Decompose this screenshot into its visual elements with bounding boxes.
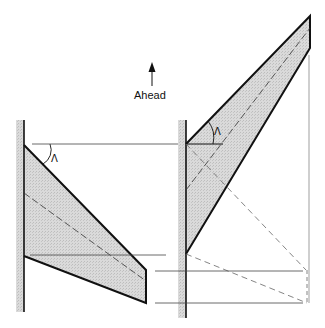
ahead-arrow-icon (149, 62, 156, 86)
left-sweep-angle-arc (43, 144, 51, 164)
right-quarter-chord-line (186, 28, 310, 190)
forward-swept-wing: Λ (178, 16, 310, 318)
right-fuselage-band (178, 120, 186, 318)
mirror-te-dashed-line (186, 254, 307, 303)
aft-swept-wing: Λ (16, 120, 166, 312)
left-fuselage-band (16, 120, 24, 312)
right-sweep-angle-label: Λ (214, 126, 221, 137)
left-sweep-angle-label: Λ (51, 153, 58, 164)
swept-wing-diagram: Ahead Λ Λ (0, 0, 325, 328)
ahead-label: Ahead (134, 89, 166, 101)
